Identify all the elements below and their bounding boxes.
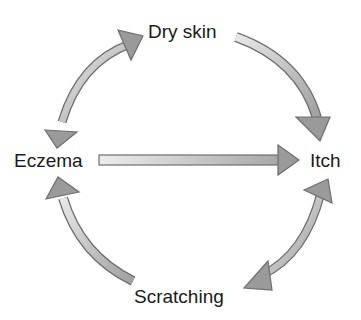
arrow-eczema-itch bbox=[99, 145, 299, 175]
arrowhead-icon bbox=[45, 130, 77, 148]
arrowhead-icon bbox=[46, 177, 79, 199]
arrow-scratching-eczema bbox=[46, 177, 133, 281]
node-itch: Itch bbox=[310, 151, 341, 170]
node-eczema: Eczema bbox=[14, 151, 83, 170]
node-dry-skin: Dry skin bbox=[148, 22, 217, 41]
arrow-itch-scratching bbox=[244, 179, 332, 290]
node-scratching: Scratching bbox=[134, 287, 224, 306]
arrow-eczema-dryskin bbox=[45, 30, 143, 148]
arrowhead-icon bbox=[278, 145, 299, 175]
arrowhead-icon bbox=[244, 261, 272, 290]
arrow-dryskin-itch bbox=[236, 37, 330, 141]
arrowhead-icon bbox=[296, 117, 330, 141]
